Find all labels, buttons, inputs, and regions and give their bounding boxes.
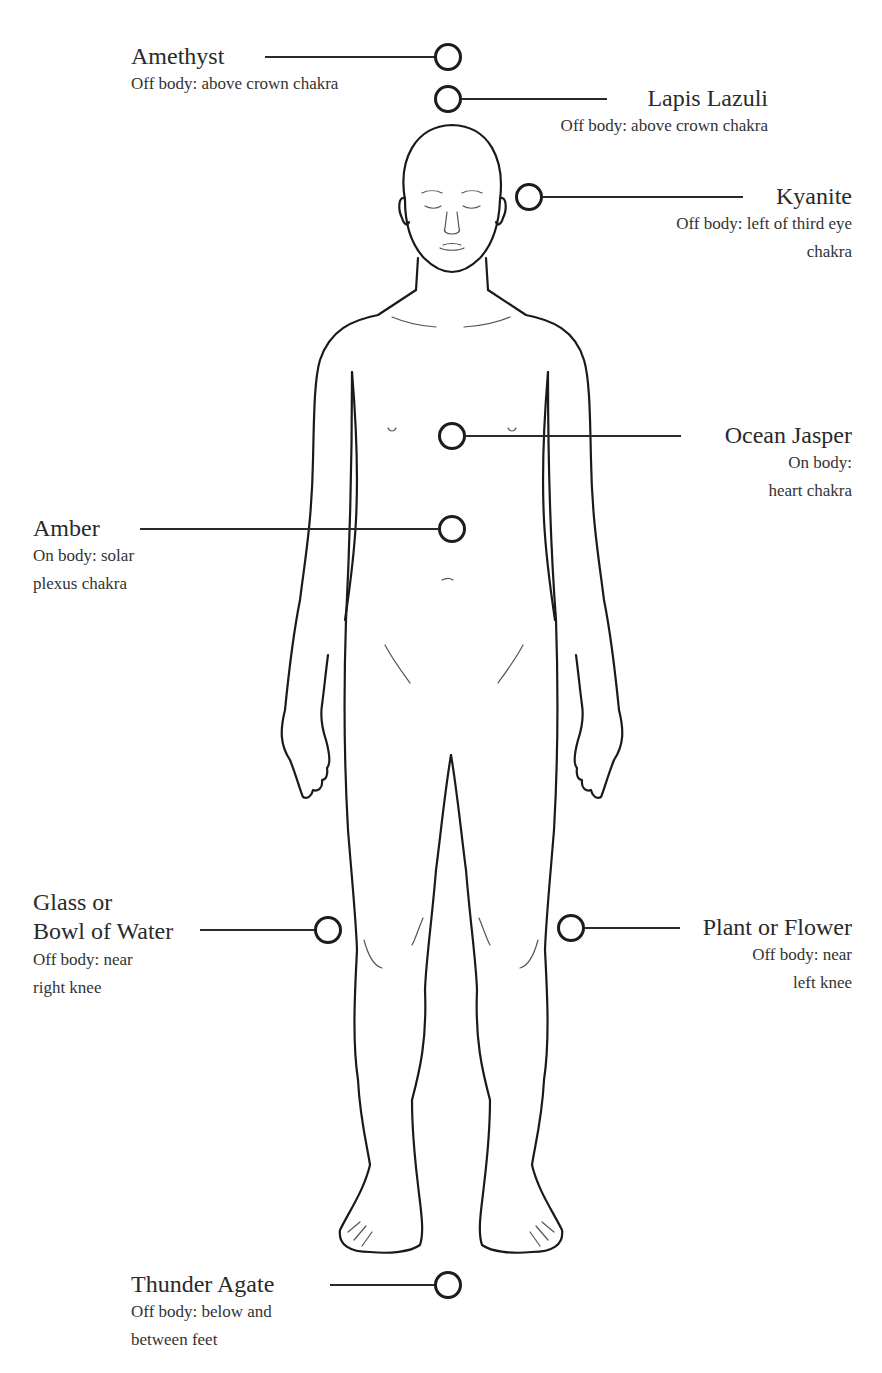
crystal-name: Lapis Lazuli: [561, 86, 768, 110]
label-amethyst: Amethyst Off body: above crown chakra: [131, 44, 338, 98]
crystal-name: Kyanite: [676, 184, 852, 208]
placement-marker-thunder-agate: [434, 1271, 462, 1299]
crystal-name: Plant or Flower: [703, 915, 852, 939]
label-amber: Amber On body: solar plexus chakra: [33, 516, 134, 598]
label-glass-water: Glass or Bowl of Water Off body: near ri…: [33, 888, 173, 1002]
crystal-name: Amber: [33, 516, 134, 540]
placement-description: Off body: above crown chakra: [561, 112, 768, 140]
crystal-name: Amethyst: [131, 44, 338, 68]
crystal-name: Glass or: [33, 888, 173, 917]
placement-description: heart chakra: [725, 477, 852, 505]
leader-line-glass-water: [200, 929, 315, 931]
placement-description: Off body: left of third eye: [676, 210, 852, 238]
crystal-name: Thunder Agate: [131, 1272, 274, 1296]
label-plant-flower: Plant or Flower Off body: near left knee: [703, 915, 852, 997]
crystal-name: Bowl of Water: [33, 917, 173, 946]
placement-description: Off body: above crown chakra: [131, 70, 338, 98]
placement-description: Off body: near: [33, 946, 173, 974]
placement-description: left knee: [703, 969, 852, 997]
placement-description: right knee: [33, 974, 173, 1002]
label-lapis-lazuli: Lapis Lazuli Off body: above crown chakr…: [561, 86, 768, 140]
placement-description: Off body: near: [703, 941, 852, 969]
placement-marker-plant-flower: [557, 914, 585, 942]
placement-description: On body:: [725, 449, 852, 477]
label-ocean-jasper: Ocean Jasper On body: heart chakra: [725, 423, 852, 505]
crystal-placement-diagram: Amethyst Off body: above crown chakra La…: [0, 0, 882, 1373]
placement-marker-amber: [438, 515, 466, 543]
placement-description: On body: solar: [33, 542, 134, 570]
placement-description: plexus chakra: [33, 570, 134, 598]
leader-line-amber: [140, 528, 438, 530]
placement-description: chakra: [676, 238, 852, 266]
placement-marker-ocean-jasper: [438, 422, 466, 450]
placement-marker-amethyst: [434, 43, 462, 71]
leader-line-plant-flower: [585, 927, 680, 929]
placement-description: between feet: [131, 1326, 274, 1354]
placement-marker-lapis-lazuli: [434, 85, 462, 113]
placement-marker-kyanite: [515, 183, 543, 211]
leader-line-thunder-agate: [330, 1284, 435, 1286]
leader-line-ocean-jasper: [466, 435, 681, 437]
crystal-name: Ocean Jasper: [725, 423, 852, 447]
placement-marker-glass-water: [314, 916, 342, 944]
label-thunder-agate: Thunder Agate Off body: below and betwee…: [131, 1272, 274, 1354]
label-kyanite: Kyanite Off body: left of third eye chak…: [676, 184, 852, 266]
placement-description: Off body: below and: [131, 1298, 274, 1326]
